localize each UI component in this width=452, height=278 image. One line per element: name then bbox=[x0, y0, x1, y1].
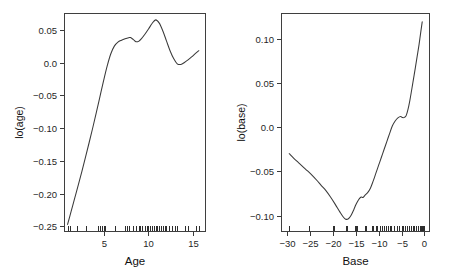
x-tick-label: −10 bbox=[371, 238, 387, 249]
x-tick-label: −25 bbox=[302, 238, 318, 249]
y-axis-title: lo(base) bbox=[235, 104, 247, 142]
y-tick-label: −0.20 bbox=[33, 189, 57, 200]
plot-frame bbox=[65, 14, 206, 232]
rug-marks bbox=[290, 226, 425, 231]
x-axis-title: Base bbox=[342, 255, 368, 267]
lo-age-plot-area: 0.050.0−0.05−0.10−0.15−0.20−0.2551015Age… bbox=[0, 0, 226, 278]
y-tick-label: 0.0 bbox=[261, 122, 274, 133]
fitted-smooth-curve bbox=[289, 22, 422, 220]
x-tick-label: −20 bbox=[325, 238, 341, 249]
x-tick-label: 10 bbox=[143, 238, 154, 249]
y-tick-label: 0.0 bbox=[44, 58, 57, 69]
y-tick-label: −0.25 bbox=[33, 221, 57, 232]
x-tick-label: 5 bbox=[102, 238, 107, 249]
lo-age-panel: 0.050.0−0.05−0.10−0.15−0.20−0.2551015Age… bbox=[0, 0, 226, 278]
y-tick-label: 0.05 bbox=[39, 25, 58, 36]
lo-base-plot-area: 0.100.050.0−0.05−0.10−30−25−20−15−10−50B… bbox=[226, 0, 452, 278]
smoother-partial-plots-figure: 0.050.0−0.05−0.10−0.15−0.20−0.2551015Age… bbox=[0, 0, 452, 278]
x-tick-label: −5 bbox=[397, 238, 408, 249]
x-tick-label: 0 bbox=[422, 238, 427, 249]
plot-frame bbox=[282, 14, 430, 232]
y-tick-label: −0.05 bbox=[33, 90, 57, 101]
fitted-smooth-curve bbox=[68, 20, 199, 225]
y-tick-label: −0.05 bbox=[250, 166, 274, 177]
x-tick-label: 15 bbox=[188, 238, 199, 249]
y-tick-label: −0.10 bbox=[33, 123, 57, 134]
x-tick-label: −30 bbox=[279, 238, 295, 249]
y-tick-label: −0.10 bbox=[250, 211, 274, 222]
lo-base-panel: 0.100.050.0−0.05−0.10−30−25−20−15−10−50B… bbox=[226, 0, 452, 278]
y-tick-label: 0.10 bbox=[256, 34, 275, 45]
y-tick-label: 0.05 bbox=[256, 78, 275, 89]
y-tick-label: −0.15 bbox=[33, 156, 57, 167]
x-tick-label: −15 bbox=[348, 238, 364, 249]
rug-marks bbox=[69, 226, 200, 231]
x-axis-title: Age bbox=[125, 255, 145, 267]
y-axis-title: lo(age) bbox=[13, 106, 25, 139]
